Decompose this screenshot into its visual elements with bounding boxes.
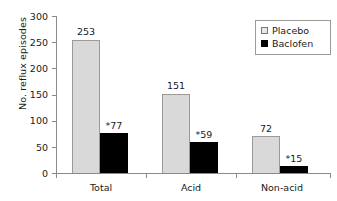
bar-placebo-total [72, 40, 100, 174]
y-axis-tick-labels: 300 250 200 150 100 50 0 [18, 0, 48, 201]
bar-chart: No. reflux episodes 300 250 200 150 100 … [0, 0, 337, 201]
x-tick-mark-left [56, 174, 57, 178]
x-tick-mark-1 [146, 174, 147, 178]
bar-value-baclofen-total: *77 [92, 121, 136, 131]
chart-legend: Placebo Baclofen [255, 20, 331, 55]
x-category-label-acid: Acid [145, 182, 237, 193]
legend-label-placebo: Placebo [272, 26, 309, 36]
x-category-label-non-acid: Non-acid [236, 182, 328, 193]
y-tick-mark-50 [52, 147, 56, 148]
filled-square-swatch-icon [261, 40, 268, 47]
y-tick-label-300: 300 [22, 12, 48, 22]
legend-label-baclofen: Baclofen [272, 39, 313, 49]
legend-entry-baclofen: Baclofen [261, 37, 325, 50]
y-tick-label-50: 50 [22, 143, 48, 153]
x-category-label-total: Total [55, 182, 147, 193]
bar-baclofen-acid [190, 142, 218, 174]
x-axis-line [56, 173, 331, 174]
bar-baclofen-total [100, 133, 128, 174]
y-tick-mark-300 [52, 16, 56, 17]
x-tick-mark-2 [236, 174, 237, 178]
y-tick-label-250: 250 [22, 38, 48, 48]
y-axis-line [56, 16, 57, 174]
y-tick-mark-250 [52, 42, 56, 43]
y-tick-label-200: 200 [22, 64, 48, 74]
bar-value-placebo-acid: 151 [154, 81, 198, 91]
y-tick-label-0: 0 [22, 169, 48, 179]
y-tick-mark-100 [52, 121, 56, 122]
y-tick-mark-150 [52, 95, 56, 96]
y-tick-label-100: 100 [22, 116, 48, 126]
y-tick-label-150: 150 [22, 90, 48, 100]
legend-entry-placebo: Placebo [261, 24, 325, 37]
y-tick-mark-200 [52, 68, 56, 69]
bar-value-baclofen-acid: *59 [182, 130, 226, 140]
open-square-swatch-icon [261, 27, 268, 34]
bar-value-placebo-nonacid: 72 [244, 124, 288, 134]
bar-value-baclofen-nonacid: *15 [272, 154, 316, 164]
bar-value-placebo-total: 253 [64, 27, 108, 37]
x-tick-mark-right [330, 174, 331, 178]
